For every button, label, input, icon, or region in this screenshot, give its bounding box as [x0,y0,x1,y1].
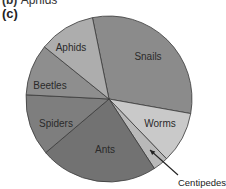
pie-chart: SnailsWormsCentipedesAntsSpidersBeetlesA… [0,0,226,189]
slice-label-snails: Snails [134,51,161,62]
callout-label-centipedes: Centipedes [178,177,226,188]
slice-label-worms: Worms [144,118,175,129]
slice-label-aphids: Aphids [56,42,87,53]
slice-label-ants: Ants [95,144,115,155]
slice-label-beetles: Beetles [33,80,66,91]
slice-label-spiders: Spiders [39,118,73,129]
